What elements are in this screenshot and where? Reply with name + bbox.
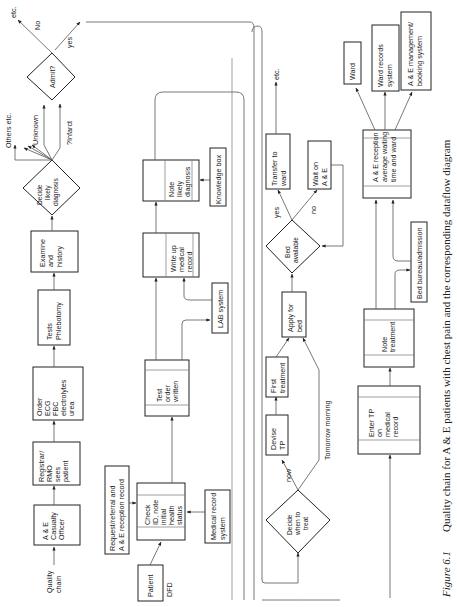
external-ward: Ward [344,42,361,84]
svg-text:urea: urea [67,402,76,416]
decision-diagnosis: Decide likely diagnosis [23,160,80,215]
admit-yes: yes [65,36,74,48]
figure-caption: Figure 6.1 Quality chain for A & E patie… [440,139,452,598]
external-lab-system: LAB system [212,283,228,333]
svg-text:Phlebotomy: Phlebotomy [54,302,63,340]
svg-text:Figure 6.1: Figure 6.1 [440,551,452,598]
svg-text:written: written [171,381,180,403]
svg-text:A & E reception: A & E reception [371,132,380,182]
external-bed-bureau: Bed bureau/admission [411,222,427,302]
svg-text:likely: likely [44,185,52,200]
branch-others: Others etc. [4,113,13,148]
svg-text:history: history [55,245,64,267]
svg-text:system: system [385,64,394,87]
svg-text:average waiting: average waiting [380,132,389,182]
step-order-tests: Order ECG FBC electrolytes urea [33,367,83,420]
label-bed-no: no [309,206,318,214]
step-wait-ae: Wait on A & E [308,141,331,189]
svg-text:ward: ward [279,170,288,187]
svg-text:Devise: Devise [269,428,278,450]
process-write-up: Write up medical record [143,233,199,277]
external-booking-system: A & E management/ booking system [401,12,431,90]
process-check-id: Check ID, note initial health status [137,483,185,540]
svg-text:status: status [175,505,184,525]
label-tomorrow: Tomorrow morning [323,400,332,460]
step-registrar: Registrar/ RMO sees patient [33,442,80,485]
step-transfer-ward: Transfer to ward [266,134,290,189]
admit-etc: etc. [9,6,18,18]
process-test-order: Test order written [145,360,189,416]
svg-text:treat: treat [302,517,309,530]
svg-text:diagnosis: diagnosis [52,177,60,206]
svg-text:Quality: Quality [45,570,54,593]
decision-bed-available: Bed available [266,220,320,273]
svg-text:time and ward: time and ward [389,137,398,182]
step-first-treatment: First treatment [266,357,288,397]
svg-text:Bed bureau/admission: Bed bureau/admission [415,227,424,299]
process-reception: A & E reception average waiting time and… [363,130,411,198]
step-devise-tp: Devise TP [266,415,288,455]
quality-chain-label: Quality chain [45,570,63,593]
decision-when-to-treat: Decide when to treat [266,490,330,553]
step-examine: Examine and history [31,231,78,272]
svg-text:Ward: Ward [348,63,357,80]
svg-text:patient: patient [61,460,70,482]
svg-text:Officer: Officer [57,518,66,540]
svg-text:when to: when to [294,512,301,536]
svg-text:First: First [269,379,278,393]
external-knowledge-box: Knowledge box [210,148,226,206]
svg-text:diagnosis: diagnosis [183,166,192,197]
svg-text:record: record [391,417,400,437]
process-enter-tp: Enter TP on medical record [358,386,420,454]
svg-text:A & E: A & E [320,168,329,186]
svg-text:Quality chain for A & E patien: Quality chain for A & E patients with ch… [440,139,452,532]
svg-text:bed: bed [295,320,304,332]
label-bed-yes: yes [272,206,281,218]
svg-text:TP: TP [278,441,287,450]
svg-text:A & E reception record: A & E reception record [117,479,126,551]
svg-text:treatment: treatment [278,363,287,393]
step-casualty-officer: A & E Casualty Officer [34,505,80,545]
svg-text:LAB system: LAB system [216,290,225,328]
dfd-label: DFD [165,582,174,597]
svg-text:chain: chain [54,576,63,593]
svg-text:Request/referral and: Request/referral and [108,485,117,551]
svg-text:treatment: treatment [388,322,397,352]
svg-text:Ward records: Ward records [376,44,385,87]
svg-text:Apply for: Apply for [286,303,295,332]
external-ward-records: Ward records system [372,25,399,91]
svg-text:Decide: Decide [36,184,43,205]
quality-chain-diagram: Quality chain A & E Casualty Officer Reg… [0,0,457,607]
svg-text:Tests: Tests [45,323,54,340]
label-now: now [284,468,293,482]
svg-text:Knowledge box: Knowledge box [214,154,223,204]
svg-text:Wait on: Wait on [311,162,320,186]
svg-text:A & E management/: A & E management/ [406,22,415,86]
external-medical-record-system: Medical record system [205,490,230,543]
label-transfer-etc: etc. [272,68,281,80]
svg-text:system: system [218,517,227,540]
svg-text:Patient: Patient [146,575,155,597]
process-note-diagnosis: Note likely diagnosis [143,160,199,201]
external-request: Request/referral and A & E reception rec… [105,466,129,554]
svg-text:and: and [46,255,55,267]
svg-text:Admit?: Admit? [48,66,57,88]
svg-text:Medical record: Medical record [209,493,218,540]
external-patient: Patient [138,565,163,601]
decision-admit: Admit? [27,53,75,100]
step-tests: Tests Phlebotomy [38,290,70,345]
branch-unknown: Unknown [31,115,40,145]
step-apply-bed: Apply for bed [282,292,306,337]
svg-text:booking system: booking system [415,36,424,86]
svg-text:Bed: Bed [284,246,291,258]
svg-text:available: available [292,237,299,263]
process-note-treatment: Note treatment [364,309,414,367]
svg-text:Transfer to: Transfer to [270,152,279,186]
svg-text:record: record [185,252,194,272]
svg-text:Decide: Decide [286,514,293,535]
branch-infarct: ?Infarct [65,121,74,145]
admit-no: No [33,21,42,30]
